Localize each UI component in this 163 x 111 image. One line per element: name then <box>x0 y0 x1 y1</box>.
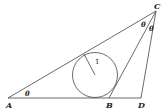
angle-label-c-acb: θ <box>141 20 146 29</box>
segment-ac <box>8 11 156 98</box>
point-label-b: B <box>105 100 113 110</box>
geometry-diagram: 1 A B C D θ θ θ <box>0 0 163 111</box>
point-label-a: A <box>5 100 12 110</box>
radius-line <box>84 54 95 75</box>
angle-label-a: θ <box>25 89 30 98</box>
point-label-d: D <box>137 100 145 110</box>
radius-label: 1 <box>95 58 99 66</box>
point-label-c: C <box>154 1 161 11</box>
angle-label-c-bcd: θ <box>149 24 154 33</box>
